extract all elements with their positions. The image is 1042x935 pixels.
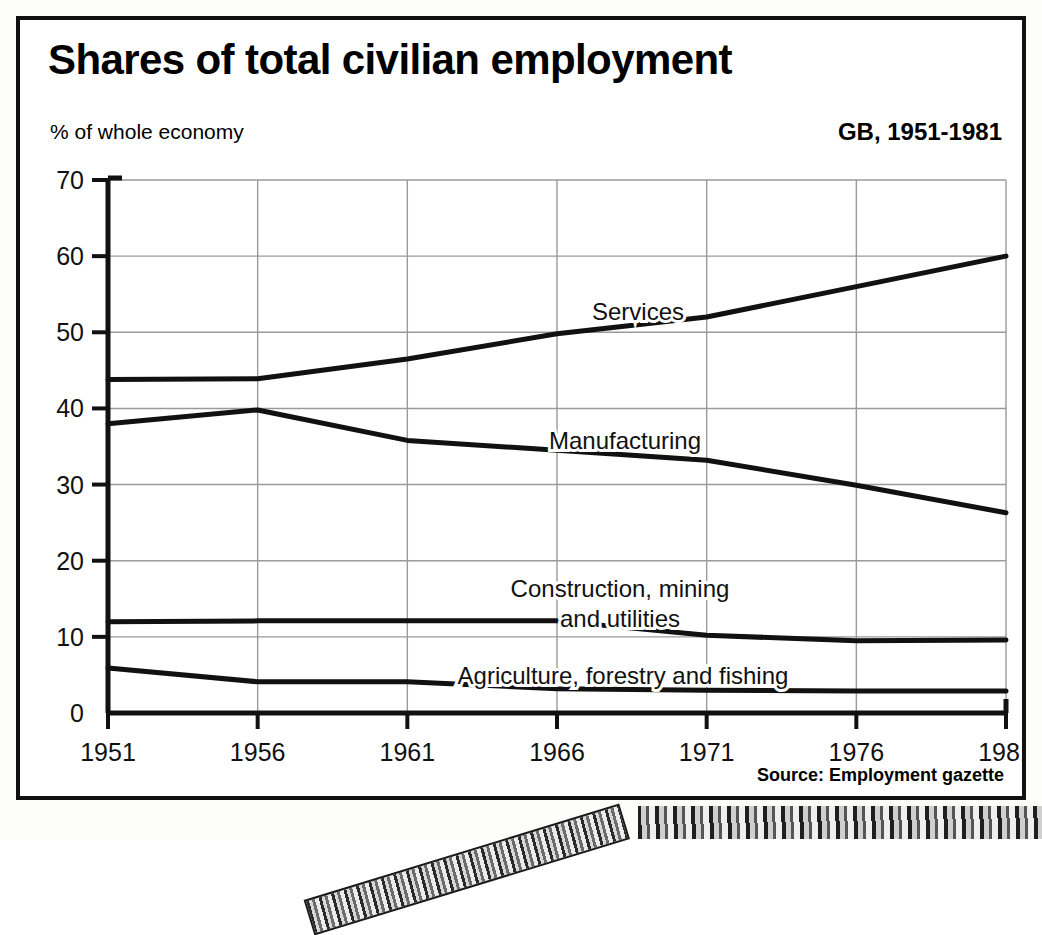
plot-area: 010203040506070 195119561961196619711976… — [20, 20, 1022, 796]
x-tick-label: 1961 — [380, 738, 436, 766]
x-tick-label: 1951 — [80, 738, 136, 766]
x-tick-labels-group: 1951195619611966197119761981 — [80, 738, 1022, 766]
y-tick-label: 30 — [56, 471, 84, 499]
y-tick-label: 20 — [56, 547, 84, 575]
x-tick-label: 1966 — [529, 738, 585, 766]
source-note: Source: Employment gazette — [757, 765, 1004, 786]
x-tick-label: 1971 — [679, 738, 735, 766]
y-tick-label: 40 — [56, 394, 84, 422]
series-label: Services — [592, 298, 684, 325]
scan-edge-artifact-left — [304, 804, 630, 935]
axis-ticks-group — [92, 180, 1006, 729]
line-chart-svg: 010203040506070 195119561961196619711976… — [20, 20, 1022, 796]
series-label: Agriculture, forestry and fishing — [458, 662, 789, 689]
y-tick-labels-group: 010203040506070 — [56, 166, 84, 727]
x-tick-label: 1976 — [829, 738, 885, 766]
series-inline-labels-group: ServicesManufacturingConstruction, minin… — [458, 298, 789, 689]
series-label: and utilities — [560, 605, 680, 632]
y-tick-label: 70 — [56, 166, 84, 194]
y-tick-label: 10 — [56, 623, 84, 651]
y-tick-label: 60 — [56, 242, 84, 270]
series-label: Manufacturing — [549, 427, 701, 454]
chart-figure-frame: Shares of total civilian employment % of… — [16, 16, 1026, 800]
x-tick-label: 1981 — [978, 738, 1022, 766]
y-tick-label: 50 — [56, 318, 84, 346]
x-tick-label: 1956 — [230, 738, 286, 766]
series-label: Construction, mining — [511, 575, 730, 602]
y-tick-label: 0 — [70, 699, 84, 727]
scan-edge-artifact-right — [638, 806, 1042, 839]
